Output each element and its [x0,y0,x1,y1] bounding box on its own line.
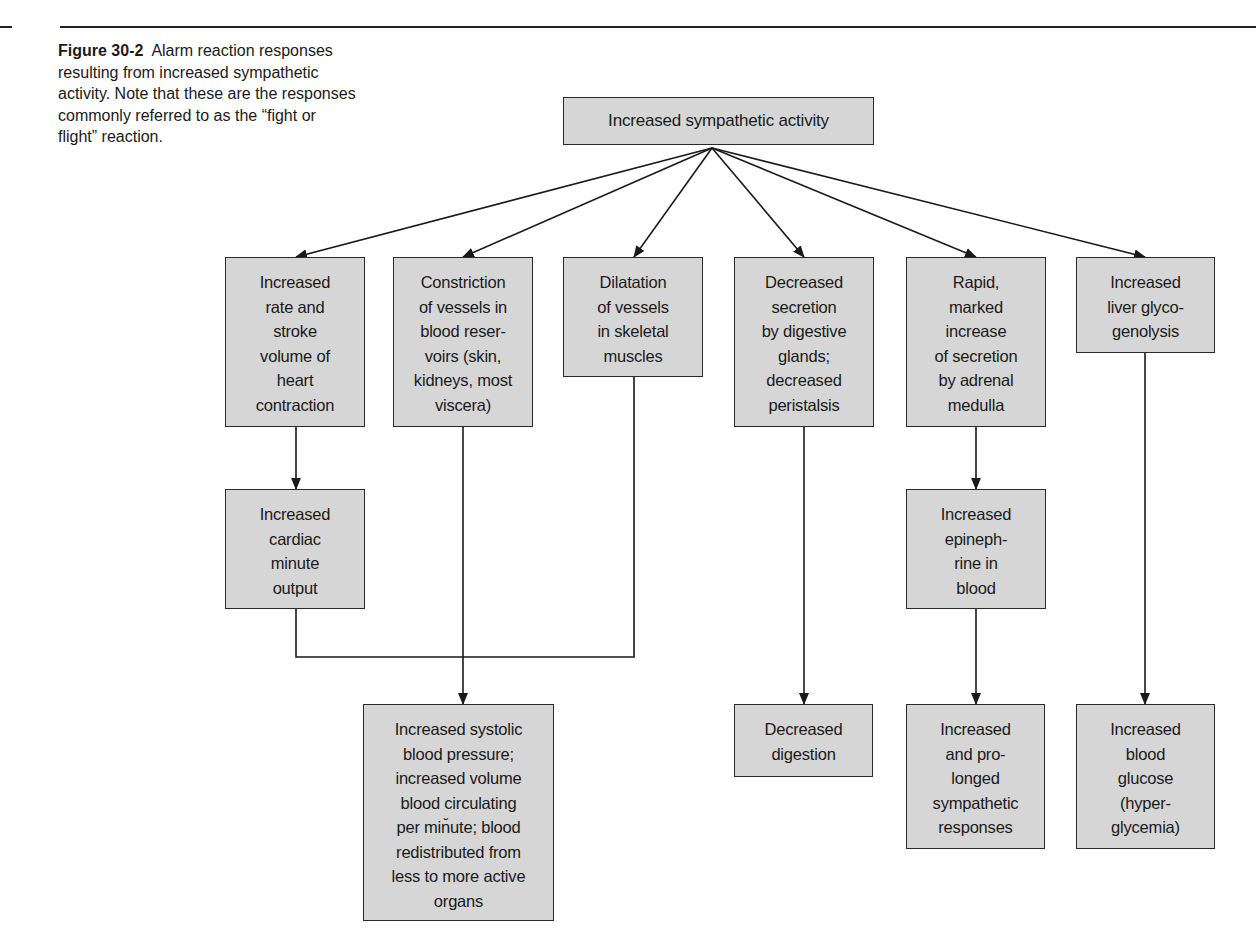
node-label: Dilatation of vessels in skeletal muscle… [597,270,668,368]
node-liver-glycogenolysis: Increased liver glyco- genolysis [1076,257,1215,353]
arrow-root-to-digestive [712,148,804,257]
arrow-root-to-constriction [463,148,712,257]
node-label: Increased and pro- longed sympathetic re… [933,717,1019,840]
node-epinephrine: Increased epineph- rine in blood [906,489,1046,609]
arrow-root-to-heart [296,148,712,257]
node-prolonged-responses: Increased and pro- longed sympathetic re… [906,704,1045,849]
node-digestive-secretion: Decreased secretion by digestive glands;… [734,257,874,427]
node-vessel-constriction: Constriction of vessels in blood reser- … [393,257,533,427]
node-label: Increased systolic blood pressure; incre… [392,717,526,913]
node-label: Decreased digestion [765,717,843,766]
node-label: Increased sympathetic activity [608,109,829,134]
node-label: Increased blood glucose (hyper- glycemia… [1110,717,1181,840]
node-heart-rate: Increased rate and stroke volume of hear… [225,257,365,427]
node-decreased-digestion: Decreased digestion [734,704,873,777]
node-blood-glucose: Increased blood glucose (hyper- glycemia… [1076,704,1215,849]
node-cardiac-output: Increased cardiac minute output [225,489,365,609]
node-label: Decreased secretion by digestive glands;… [762,270,847,417]
node-increased-sympathetic-activity: Increased sympathetic activity [563,97,874,145]
node-systolic-pressure: Increased systolic blood pressure; incre… [363,704,554,921]
node-label: Increased cardiac minute output [260,502,331,600]
node-label: Rapid, marked increase of secretion by a… [935,270,1018,417]
node-vessel-dilatation: Dilatation of vessels in skeletal muscle… [563,257,703,377]
arrow-root-to-liver [712,148,1145,257]
node-adrenal-medulla: Rapid, marked increase of secretion by a… [906,257,1046,427]
arrow-root-to-adrenal [712,148,976,257]
node-label: Increased epineph- rine in blood [941,502,1012,600]
node-label: Increased rate and stroke volume of hear… [256,270,335,417]
node-label: Constriction of vessels in blood reser- … [414,270,512,417]
node-label: Increased liver glyco- genolysis [1107,270,1183,344]
